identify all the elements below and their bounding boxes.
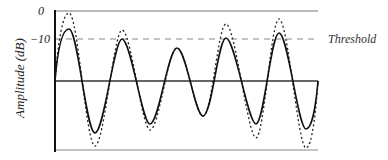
- y-axis-label: Amplitude (dB): [12, 33, 28, 123]
- y-tick-0: 0: [38, 4, 44, 19]
- y-tick-minus-10: −10: [30, 32, 50, 47]
- compression-diagram: [0, 0, 388, 160]
- threshold-label: Threshold: [328, 32, 376, 47]
